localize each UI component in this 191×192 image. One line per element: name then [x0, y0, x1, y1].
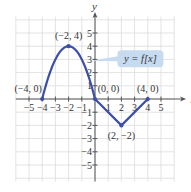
y-tick-label: −1: [81, 107, 92, 118]
y-tick-label: −4: [81, 146, 92, 157]
y-tick-label: −5: [81, 160, 92, 171]
x-axis-label: x: [190, 93, 191, 105]
x-tick-label: 4: [145, 102, 150, 113]
function-graph: xy−5−4−3−2−112345−5−4−3−2−112345 (−4, 0)…: [0, 0, 191, 192]
function-label-callout: y = f[x]: [91, 50, 163, 67]
callout-label: y = f[x]: [123, 53, 157, 64]
y-tick-label: 3: [87, 54, 92, 65]
x-tick-label: −5: [24, 102, 35, 113]
key-point-label: (−4, 0): [14, 83, 41, 95]
key-point-marker: [146, 97, 150, 101]
key-point-marker: [93, 97, 97, 101]
key-point-label: (−2, 4): [55, 30, 82, 42]
y-tick-label: 4: [87, 41, 92, 52]
key-point-label: (0, 0): [98, 83, 120, 95]
x-tick-label: 5: [159, 102, 164, 113]
y-tick-label: −2: [81, 120, 92, 131]
key-point-marker: [119, 123, 123, 127]
key-point-marker: [40, 97, 44, 101]
y-tick-label: −3: [81, 133, 92, 144]
x-tick-label: 2: [119, 102, 124, 113]
key-point-label: (2, −2): [108, 130, 135, 142]
x-tick-label: −4: [37, 102, 48, 113]
key-point-label: (4, 0): [137, 83, 159, 95]
key-point-marker: [67, 44, 71, 48]
x-tick-label: −2: [63, 102, 74, 113]
y-tick-label: 5: [87, 28, 92, 39]
x-tick-label: −3: [50, 102, 61, 113]
y-axis-label: y: [91, 0, 97, 12]
